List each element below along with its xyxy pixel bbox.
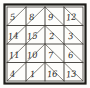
cell-r1c2: 8 bbox=[29, 13, 35, 22]
cell-r1c1: 5 bbox=[10, 13, 16, 22]
cell-r2c3: 2 bbox=[49, 32, 55, 41]
cell-r3c4: 6 bbox=[68, 51, 74, 60]
magic-square-figure: 5 8 9 12 14 15 2 3 11 10 7 6 4 1 16 13 bbox=[0, 0, 90, 88]
cell-r4c2: 1 bbox=[30, 70, 36, 79]
cell-r4c4: 13 bbox=[66, 70, 77, 79]
cell-r3c1: 11 bbox=[9, 50, 20, 60]
cell-r2c2: 15 bbox=[27, 31, 38, 41]
cell-r1c3: 9 bbox=[48, 13, 54, 22]
cell-r2c1: 14 bbox=[8, 31, 19, 41]
cell-r4c3: 16 bbox=[47, 70, 58, 79]
cell-r4c1: 4 bbox=[10, 70, 16, 79]
cell-r3c2: 10 bbox=[27, 50, 38, 60]
cell-r2c4: 3 bbox=[68, 32, 74, 41]
cell-r1c4: 12 bbox=[66, 13, 77, 22]
cell-r3c3: 7 bbox=[48, 51, 54, 60]
